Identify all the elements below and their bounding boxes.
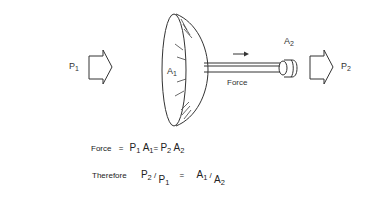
label-a2: A2 xyxy=(284,37,294,47)
label-p1: P1 xyxy=(69,62,79,72)
label-a1: A1 xyxy=(167,67,177,77)
label-force: Force xyxy=(227,79,247,87)
output-pressure-arrow xyxy=(310,50,333,84)
equation-ratio: Therefore P2 / P1 = A1 / A2 xyxy=(92,170,225,182)
equation-force: Force = P1 A1= P2 A2 xyxy=(91,143,184,155)
label-p2: P2 xyxy=(341,62,351,72)
small-piston xyxy=(279,60,297,77)
input-pressure-arrow xyxy=(89,50,112,84)
force-direction-arrow xyxy=(233,52,249,57)
piston-rod xyxy=(204,63,280,72)
